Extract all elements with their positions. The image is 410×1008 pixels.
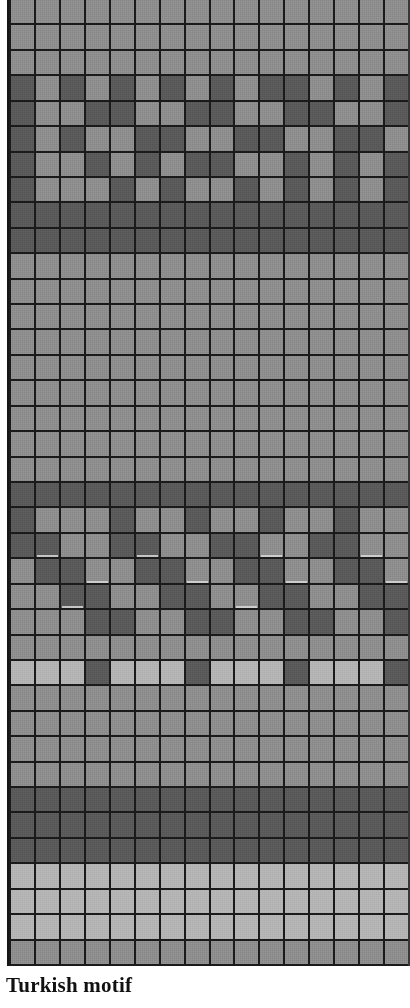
chart-cell[interactable]: [86, 763, 109, 786]
chart-cell[interactable]: [310, 254, 333, 277]
chart-cell[interactable]: [186, 737, 209, 760]
chart-cell[interactable]: [335, 102, 358, 125]
chart-cell[interactable]: [260, 686, 283, 709]
chart-cell[interactable]: [285, 127, 308, 150]
chart-cell[interactable]: [285, 636, 308, 659]
chart-cell[interactable]: [285, 737, 308, 760]
chart-cell[interactable]: [36, 178, 59, 201]
chart-cell[interactable]: [310, 102, 333, 125]
chart-cell[interactable]: [11, 0, 34, 23]
chart-cell[interactable]: [86, 127, 109, 150]
chart-cell[interactable]: [360, 178, 383, 201]
chart-cell[interactable]: [285, 51, 308, 74]
chart-cell[interactable]: [335, 229, 358, 252]
chart-cell[interactable]: [285, 712, 308, 735]
chart-cell[interactable]: [385, 102, 408, 125]
chart-cell[interactable]: [86, 788, 109, 811]
chart-cell[interactable]: [161, 483, 184, 506]
chart-cell[interactable]: [385, 636, 408, 659]
chart-cell[interactable]: [335, 788, 358, 811]
chart-cell[interactable]: [61, 305, 84, 328]
chart-cell[interactable]: [260, 585, 283, 608]
chart-cell[interactable]: [161, 788, 184, 811]
chart-cell[interactable]: [385, 153, 408, 176]
chart-cell[interactable]: [360, 890, 383, 913]
chart-cell[interactable]: [360, 229, 383, 252]
chart-cell[interactable]: [161, 915, 184, 938]
chart-cell[interactable]: [211, 585, 234, 608]
chart-cell[interactable]: [111, 153, 134, 176]
chart-cell[interactable]: [111, 102, 134, 125]
chart-cell[interactable]: [86, 178, 109, 201]
chart-cell[interactable]: [285, 534, 308, 557]
chart-cell[interactable]: [385, 559, 408, 582]
chart-cell[interactable]: [36, 686, 59, 709]
chart-cell[interactable]: [136, 356, 159, 379]
chart-cell[interactable]: [36, 788, 59, 811]
chart-cell[interactable]: [310, 737, 333, 760]
chart-cell[interactable]: [385, 356, 408, 379]
chart-cell[interactable]: [161, 254, 184, 277]
chart-cell[interactable]: [111, 610, 134, 633]
chart-cell[interactable]: [385, 305, 408, 328]
chart-cell[interactable]: [136, 534, 159, 557]
chart-cell[interactable]: [235, 610, 258, 633]
chart-cell[interactable]: [36, 941, 59, 964]
chart-cell[interactable]: [86, 407, 109, 430]
chart-cell[interactable]: [136, 102, 159, 125]
chart-cell[interactable]: [61, 610, 84, 633]
chart-cell[interactable]: [310, 483, 333, 506]
chart-cell[interactable]: [285, 661, 308, 684]
chart-cell[interactable]: [111, 636, 134, 659]
chart-cell[interactable]: [161, 178, 184, 201]
chart-cell[interactable]: [61, 432, 84, 455]
chart-cell[interactable]: [235, 737, 258, 760]
chart-cell[interactable]: [36, 254, 59, 277]
chart-cell[interactable]: [310, 407, 333, 430]
chart-cell[interactable]: [36, 839, 59, 862]
chart-cell[interactable]: [136, 890, 159, 913]
chart-cell[interactable]: [235, 915, 258, 938]
chart-cell[interactable]: [111, 229, 134, 252]
chart-cell[interactable]: [235, 25, 258, 48]
chart-cell[interactable]: [211, 305, 234, 328]
chart-cell[interactable]: [360, 534, 383, 557]
chart-cell[interactable]: [11, 813, 34, 836]
chart-cell[interactable]: [161, 763, 184, 786]
chart-cell[interactable]: [86, 636, 109, 659]
chart-cell[interactable]: [310, 585, 333, 608]
chart-cell[interactable]: [360, 0, 383, 23]
chart-cell[interactable]: [360, 864, 383, 887]
chart-cell[interactable]: [36, 661, 59, 684]
chart-cell[interactable]: [285, 813, 308, 836]
chart-cell[interactable]: [61, 229, 84, 252]
chart-cell[interactable]: [360, 25, 383, 48]
chart-cell[interactable]: [61, 661, 84, 684]
chart-cell[interactable]: [310, 280, 333, 303]
chart-cell[interactable]: [235, 381, 258, 404]
chart-cell[interactable]: [260, 890, 283, 913]
chart-cell[interactable]: [61, 203, 84, 226]
chart-cell[interactable]: [285, 508, 308, 531]
chart-cell[interactable]: [136, 610, 159, 633]
chart-cell[interactable]: [260, 407, 283, 430]
chart-cell[interactable]: [61, 839, 84, 862]
chart-cell[interactable]: [285, 763, 308, 786]
chart-cell[interactable]: [136, 788, 159, 811]
chart-cell[interactable]: [111, 839, 134, 862]
chart-cell[interactable]: [136, 737, 159, 760]
chart-cell[interactable]: [36, 356, 59, 379]
chart-cell[interactable]: [136, 178, 159, 201]
chart-cell[interactable]: [211, 636, 234, 659]
chart-cell[interactable]: [36, 508, 59, 531]
chart-cell[interactable]: [360, 102, 383, 125]
chart-cell[interactable]: [260, 76, 283, 99]
chart-cell[interactable]: [360, 254, 383, 277]
chart-cell[interactable]: [186, 508, 209, 531]
chart-cell[interactable]: [335, 458, 358, 481]
chart-cell[interactable]: [360, 432, 383, 455]
chart-cell[interactable]: [61, 813, 84, 836]
chart-cell[interactable]: [385, 941, 408, 964]
chart-cell[interactable]: [11, 203, 34, 226]
chart-cell[interactable]: [36, 127, 59, 150]
